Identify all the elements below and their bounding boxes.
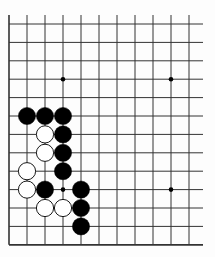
white-stone[interactable] <box>36 199 53 216</box>
black-stone[interactable] <box>54 144 71 161</box>
black-stone[interactable] <box>36 107 53 124</box>
go-board[interactable] <box>0 0 215 257</box>
black-stone[interactable] <box>72 181 89 198</box>
black-stone[interactable] <box>36 181 53 198</box>
black-stone[interactable] <box>18 107 35 124</box>
star-point-icon <box>61 187 66 192</box>
star-point-icon <box>61 77 66 82</box>
star-point-icon <box>169 77 174 82</box>
black-stone[interactable] <box>54 126 71 143</box>
black-stone[interactable] <box>54 163 71 180</box>
white-stone[interactable] <box>36 144 53 161</box>
white-stone[interactable] <box>36 126 53 143</box>
white-stone[interactable] <box>18 163 35 180</box>
white-stone[interactable] <box>54 199 71 216</box>
star-point-icon <box>169 187 174 192</box>
black-stone[interactable] <box>72 218 89 235</box>
black-stone[interactable] <box>72 199 89 216</box>
black-stone[interactable] <box>54 107 71 124</box>
white-stone[interactable] <box>18 181 35 198</box>
